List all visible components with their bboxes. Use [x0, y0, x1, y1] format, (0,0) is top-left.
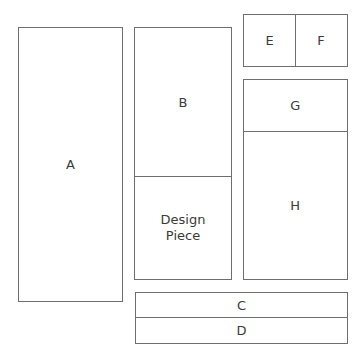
design-piece-label: Design Piece [161, 212, 206, 244]
piece-d-label: D [236, 323, 246, 339]
piece-c: C [135, 292, 348, 319]
piece-e-label: E [265, 33, 273, 49]
piece-h-label: H [290, 198, 300, 214]
piece-g: G [243, 79, 348, 133]
piece-h: H [243, 131, 348, 280]
piece-d: D [135, 317, 348, 344]
piece-f-label: F [317, 33, 324, 49]
piece-c-label: C [237, 298, 246, 314]
design-piece: Design Piece [134, 176, 232, 280]
piece-a-label: A [66, 157, 75, 173]
piece-b-label: B [179, 95, 188, 111]
piece-e: E [243, 14, 296, 67]
piece-b: B [134, 27, 232, 178]
piece-f: F [295, 14, 348, 67]
piece-a: A [18, 27, 123, 302]
piece-g-label: G [290, 98, 300, 114]
